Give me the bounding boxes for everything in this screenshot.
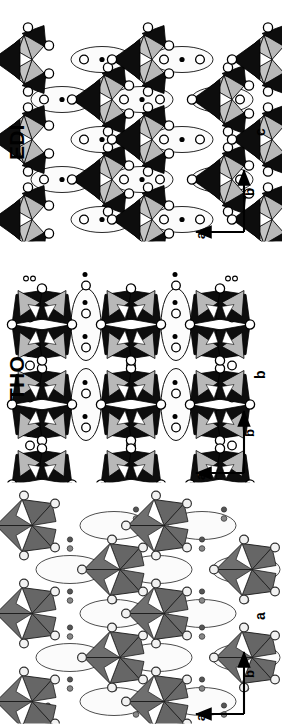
panel-edi-view-axis-label: c (253, 128, 267, 136)
panel-edi-axis-b-label: b (243, 188, 256, 196)
panel-nat-axis-indicator (186, 630, 278, 722)
figure-root: EDI c b a (0, 0, 282, 724)
panel-tho-axis-a-label: a (194, 473, 207, 480)
panel-nat-view-axis-label: a (253, 612, 267, 620)
panel-edi: EDI c b a (0, 0, 282, 241)
panel-nat-axis-b-label: b (243, 670, 256, 678)
panel-tho-axis-indicator (186, 389, 278, 481)
panel-edi-axis-a-label: a (194, 232, 207, 239)
panel-tho-title: THO (6, 356, 27, 401)
panel-nat: a b a (0, 482, 282, 723)
panel-tho: THO b b a (0, 241, 282, 482)
panel-nat-axis-a-label: a (194, 714, 207, 721)
panel-edi-axis-indicator (186, 148, 278, 240)
panel-edi-title: EDI (6, 124, 27, 160)
panel-tho-view-axis-label: b (253, 370, 267, 379)
panel-tho-axis-b-label: b (243, 429, 256, 437)
